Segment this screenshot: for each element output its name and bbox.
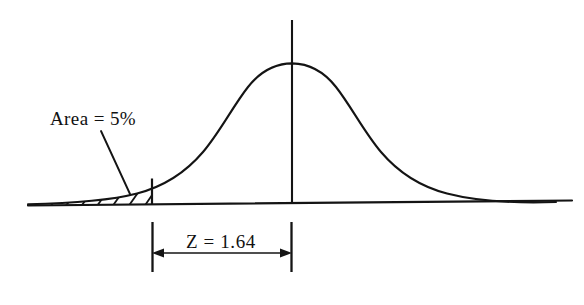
area-leader-line — [101, 131, 130, 194]
area-label: Area = 5% — [50, 108, 136, 129]
z-value-label: Z = 1.64 — [186, 231, 256, 252]
arrow-head-right — [280, 249, 292, 258]
normal-distribution-figure: Area = 5% Z = 1.64 — [0, 0, 584, 305]
tail-hatching — [30, 170, 168, 214]
arrow-head-left — [152, 249, 164, 258]
figure-canvas: Area = 5% Z = 1.64 — [0, 0, 584, 305]
